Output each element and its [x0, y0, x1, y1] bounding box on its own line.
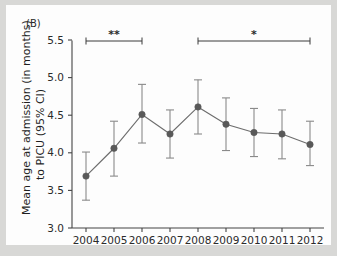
- chart-svg: (B) Mean age at admission (in months) to…: [6, 5, 331, 245]
- x-axis: 200420052006200720082009201020112012: [72, 228, 324, 245]
- data-point-marker: [307, 141, 313, 147]
- x-axis-tick-label: 2012: [297, 234, 324, 245]
- data-point-marker: [195, 104, 201, 110]
- data-point-marker: [111, 145, 117, 151]
- data-point-marker: [223, 121, 229, 127]
- data-point-marker: [251, 129, 257, 135]
- error-bars: [82, 80, 314, 200]
- y-axis: 3.03.54.04.55.05.5: [47, 34, 72, 234]
- significance-bracket-2: *: [198, 28, 310, 45]
- x-axis-tick-label: 2004: [73, 234, 100, 245]
- x-axis-tick-label: 2006: [129, 234, 156, 245]
- x-axis-tick-label: 2005: [101, 234, 128, 245]
- figure-container: (B) Mean age at admission (in months) to…: [0, 0, 337, 256]
- y-axis-tick-label: 4.0: [47, 146, 64, 158]
- significance-label: *: [251, 28, 257, 41]
- x-axis-tick-label: 2009: [213, 234, 240, 245]
- data-point-marker: [279, 131, 285, 137]
- data-point-marker: [139, 111, 145, 117]
- y-axis-title-line2: to PICU (95% CI): [34, 89, 47, 180]
- data-point-marker: [83, 173, 89, 179]
- significance-bracket-1: **: [86, 28, 142, 45]
- plot-panel: (B) Mean age at admission (in months) to…: [6, 5, 331, 245]
- significance-annotations: ***: [86, 28, 310, 45]
- data-point-marker: [167, 131, 173, 137]
- x-axis-tick-label: 2010: [241, 234, 268, 245]
- y-axis-tick-label: 3.0: [47, 222, 64, 234]
- y-axis-title: Mean age at admission (in months) to PIC…: [20, 20, 47, 215]
- x-axis-tick-label: 2008: [185, 234, 212, 245]
- y-axis-tick-label: 4.5: [47, 109, 64, 121]
- x-axis-tick-label: 2011: [269, 234, 296, 245]
- y-axis-tick-label: 5.5: [47, 34, 64, 46]
- significance-label: **: [108, 28, 120, 41]
- y-axis-title-line1: Mean age at admission (in months): [20, 20, 33, 215]
- y-axis-tick-label: 3.5: [47, 184, 64, 196]
- y-axis-tick-label: 5.0: [47, 71, 64, 83]
- x-axis-tick-label: 2007: [157, 234, 184, 245]
